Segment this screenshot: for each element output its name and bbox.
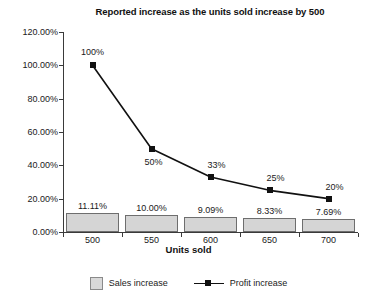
y-axis-tick-label: 120.00%	[4, 27, 58, 37]
y-axis-tick-label: 100.00%	[4, 60, 58, 70]
chart-container: Reported increase as the units sold incr…	[0, 0, 377, 304]
line-data-marker	[267, 187, 273, 193]
x-axis-tick-mark	[181, 233, 182, 237]
line-value-label: 50%	[144, 157, 162, 167]
bar-value-label: 10.00%	[136, 203, 167, 213]
legend-label-sales-increase: Sales increase	[109, 278, 168, 288]
legend-label-profit-increase: Profit increase	[230, 278, 288, 288]
x-axis-line	[63, 232, 358, 233]
line-data-marker	[326, 196, 332, 202]
y-axis-tick-label: 0.00%	[4, 227, 58, 237]
x-axis-tick-mark	[63, 233, 64, 237]
bar-swatch-icon	[90, 277, 103, 290]
legend-item-profit-increase: Profit increase	[194, 277, 288, 290]
bar-value-label: 9.09%	[198, 205, 224, 215]
y-axis-line	[63, 32, 64, 233]
legend-item-sales-increase: Sales increase	[90, 277, 168, 290]
line-data-marker	[90, 62, 96, 68]
chart-title: Reported increase as the units sold incr…	[62, 6, 358, 17]
bar	[302, 219, 355, 232]
bar-value-label: 7.69%	[316, 207, 342, 217]
line-marker-icon	[194, 277, 224, 290]
bar	[184, 217, 237, 232]
line-value-label: 33%	[207, 160, 225, 170]
line-value-label: 100%	[81, 47, 104, 57]
line-series-profit-increase	[0, 0, 377, 304]
x-axis-tick-mark	[358, 233, 359, 237]
bar	[125, 215, 178, 232]
line-data-marker	[208, 174, 214, 180]
line-data-marker	[149, 146, 155, 152]
chart-legend: Sales increase Profit increase	[0, 275, 377, 291]
line-value-label: 20%	[325, 182, 343, 192]
x-axis-tick-mark	[299, 233, 300, 237]
bar	[66, 213, 119, 232]
bar	[243, 218, 296, 232]
y-axis-tick-label: 40.00%	[4, 160, 58, 170]
x-axis-tick-mark	[240, 233, 241, 237]
bar-value-label: 8.33%	[257, 206, 283, 216]
y-axis-tick-label: 20.00%	[4, 194, 58, 204]
bar-value-label: 11.11%	[78, 201, 107, 211]
y-axis-tick-label: 60.00%	[4, 127, 58, 137]
x-axis-tick-mark	[122, 233, 123, 237]
line-value-label: 25%	[266, 173, 284, 183]
x-axis-title: Units sold	[0, 244, 377, 255]
y-axis-tick-label: 80.00%	[4, 94, 58, 104]
